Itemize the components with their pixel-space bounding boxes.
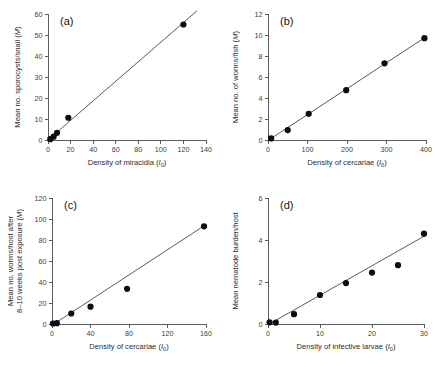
- data-point: [65, 115, 71, 121]
- chart-svg-c: 04080120160020406080100120(c)Density of …: [0, 184, 217, 367]
- panel-label: (d): [280, 199, 293, 211]
- x-tick-label: 120: [162, 329, 174, 338]
- data-point: [124, 286, 130, 292]
- x-tick-label: 0: [266, 329, 270, 338]
- x-tick-label: 30: [420, 329, 428, 338]
- chart-svg-b: 0100200300400024681012(b)Density of cerc…: [218, 0, 435, 183]
- data-point: [395, 262, 401, 268]
- data-point: [54, 130, 60, 136]
- data-point: [369, 269, 375, 275]
- y-tick-label: 10: [255, 31, 263, 40]
- x-tick-label: 10: [316, 329, 324, 338]
- y-tick-label: 120: [35, 194, 47, 203]
- y-tick-label: 40: [39, 278, 47, 287]
- y-tick-label: 50: [35, 31, 43, 40]
- chart-panel-a: 0204060801001201400102030405060(a)Densit…: [0, 0, 217, 183]
- x-tick-label: 80: [125, 329, 133, 338]
- chart-panel-d: 01020300246(d)Density of infective larva…: [218, 184, 435, 367]
- y-tick-label: 0: [43, 320, 47, 329]
- data-point: [201, 223, 207, 229]
- axis-lines: [52, 198, 206, 324]
- axis-lines: [48, 14, 206, 140]
- y-tick-label: 2: [259, 278, 263, 287]
- panel-label: (a): [60, 15, 73, 27]
- data-point: [343, 280, 349, 286]
- x-tick-label: 0: [46, 145, 50, 154]
- x-tick-label: 20: [368, 329, 376, 338]
- y-tick-label: 0: [39, 136, 43, 145]
- y-axis-title: Mean no. sporocysts/snail (M): [13, 26, 22, 128]
- y-tick-label: 40: [35, 52, 43, 61]
- y-tick-label: 4: [259, 94, 263, 103]
- data-point: [291, 311, 297, 317]
- x-tick-label: 120: [177, 145, 189, 154]
- x-axis-title: Density of infective larvae (I0): [297, 342, 396, 352]
- x-tick-label: 100: [155, 145, 167, 154]
- y-axis-title: Mean no. of worms/fish (M): [231, 31, 240, 123]
- y-tick-label: 60: [35, 10, 43, 19]
- panel-label: (c): [64, 199, 77, 211]
- data-point: [266, 319, 272, 325]
- x-tick-label: 160: [200, 329, 212, 338]
- data-point: [343, 87, 349, 93]
- data-point: [273, 319, 279, 325]
- x-tick-label: 300: [381, 145, 393, 154]
- x-axis-title: Density of miracidia (I0): [88, 158, 167, 168]
- y-tick-label: 2: [259, 115, 263, 124]
- y-axis-title: Mean nematode burden/host: [231, 212, 240, 310]
- chart-panel-b: 0100200300400024681012(b)Density of cerc…: [218, 0, 435, 183]
- data-point: [317, 292, 323, 298]
- y-tick-label: 20: [35, 94, 43, 103]
- chart-panel-c: 04080120160020406080100120(c)Density of …: [0, 184, 217, 367]
- x-tick-label: 0: [50, 329, 54, 338]
- x-tick-label: 400: [420, 145, 432, 154]
- figure-container: 0204060801001201400102030405060(a)Densit…: [0, 0, 435, 367]
- y-tick-label: 0: [259, 136, 263, 145]
- x-axis-title: Density of cercariae (I0): [307, 158, 387, 168]
- data-point: [268, 135, 274, 141]
- x-tick-label: 200: [341, 145, 353, 154]
- y-tick-label: 60: [39, 257, 47, 266]
- y-axis-title: 8–10 weeks post exposure (M): [15, 209, 24, 313]
- chart-svg-d: 01020300246(d)Density of infective larva…: [218, 184, 435, 367]
- x-tick-label: 60: [112, 145, 120, 154]
- axis-lines: [268, 14, 426, 140]
- data-point: [306, 111, 312, 117]
- x-tick-label: 40: [89, 145, 97, 154]
- y-tick-label: 12: [255, 10, 263, 19]
- y-axis-title: Mean no. worms/host after: [6, 216, 15, 306]
- y-tick-label: 10: [35, 115, 43, 124]
- y-tick-label: 6: [259, 73, 263, 82]
- data-point: [421, 35, 427, 41]
- data-point: [68, 310, 74, 316]
- y-tick-label: 4: [259, 236, 263, 245]
- x-tick-label: 140: [200, 145, 212, 154]
- data-point: [421, 231, 427, 237]
- data-point: [87, 304, 93, 310]
- x-tick-label: 40: [87, 329, 95, 338]
- fit-line: [270, 236, 424, 323]
- y-tick-label: 6: [259, 194, 263, 203]
- y-tick-label: 0: [259, 320, 263, 329]
- x-axis-title: Density of cercariae (I0): [89, 342, 169, 352]
- data-point: [381, 60, 387, 66]
- y-tick-label: 30: [35, 73, 43, 82]
- x-tick-label: 100: [302, 145, 314, 154]
- y-tick-label: 80: [39, 236, 47, 245]
- panel-label: (b): [280, 15, 293, 27]
- x-tick-label: 20: [67, 145, 75, 154]
- x-tick-label: 0: [266, 145, 270, 154]
- fit-line: [54, 226, 204, 324]
- y-tick-label: 20: [39, 299, 47, 308]
- chart-svg-a: 0204060801001201400102030405060(a)Densit…: [0, 0, 217, 183]
- y-tick-label: 100: [35, 215, 47, 224]
- data-point: [285, 127, 291, 133]
- y-tick-label: 8: [259, 52, 263, 61]
- x-tick-label: 80: [134, 145, 142, 154]
- data-point: [54, 320, 60, 326]
- axis-lines: [268, 198, 424, 324]
- fit-line: [48, 11, 197, 140]
- data-point: [180, 21, 186, 27]
